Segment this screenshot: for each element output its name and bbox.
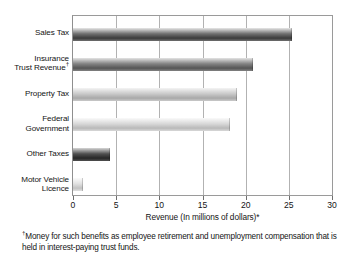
bar-motor-vehicle-licence	[73, 178, 83, 191]
category-label-line: Government	[0, 124, 69, 133]
x-tick-label-25: 25	[274, 200, 304, 210]
x-tick-label-30: 30	[317, 200, 347, 210]
bar-sales-tax	[73, 28, 292, 41]
category-label-property-tax: Property Tax	[0, 89, 69, 98]
plot-area	[72, 15, 333, 196]
dagger-marker-icon: †	[66, 61, 69, 68]
x-axis-title: Revenue (In millions of dollars)*	[72, 212, 333, 222]
category-label-sales-tax: Sales Tax	[0, 28, 69, 37]
category-label-insurance-trust-revenue: InsuranceTrust Revenue†	[0, 54, 69, 73]
bar-series	[73, 16, 332, 195]
category-axis-labels: Sales TaxInsuranceTrust Revenue†Property…	[0, 15, 69, 196]
x-tick-label-5: 5	[101, 200, 131, 210]
category-label-other-taxes: Other Taxes	[0, 149, 69, 158]
category-label-line: Licence	[0, 184, 69, 193]
category-label-federal-government: FederalGovernment	[0, 114, 69, 133]
category-label-line: Other Taxes	[0, 149, 69, 158]
chart-footnote: †Money for such benefits as employee ret…	[22, 231, 342, 253]
bar-other-taxes	[73, 148, 110, 161]
footnote-text: Money for such benefits as employee reti…	[22, 232, 337, 252]
category-label-line: Motor Vehicle	[0, 175, 69, 184]
x-tick-label-10: 10	[144, 200, 174, 210]
category-label-line: Trust Revenue†	[0, 63, 69, 72]
x-tick-label-20: 20	[231, 200, 261, 210]
category-label-line: Federal	[0, 114, 69, 123]
bar-chart-figure: Sales TaxInsuranceTrust Revenue†Property…	[0, 0, 350, 259]
x-tick-label-15: 15	[188, 200, 218, 210]
category-label-motor-vehicle-licence: Motor VehicleLicence	[0, 175, 69, 194]
category-label-line: Property Tax	[0, 89, 69, 98]
bar-federal-government	[73, 118, 230, 131]
bar-property-tax	[73, 88, 237, 101]
category-label-line: Sales Tax	[0, 28, 69, 37]
category-label-line: Insurance	[0, 54, 69, 63]
x-tick-label-0: 0	[58, 200, 88, 210]
bar-insurance-trust-revenue	[73, 58, 253, 71]
